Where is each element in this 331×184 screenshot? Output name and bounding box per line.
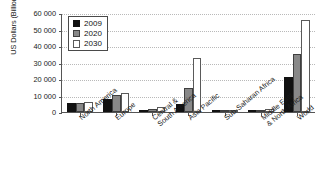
bar-2009-sub-saharan-africa — [212, 110, 221, 112]
y-tick-label: 40 000 — [14, 43, 56, 50]
legend-swatch-icon-2020 — [73, 30, 81, 38]
legend-item-2020: 2020 — [73, 30, 102, 38]
legend-label-2030: 2030 — [84, 40, 102, 48]
bar-group — [134, 14, 170, 112]
x-category-label: World — [296, 116, 301, 122]
y-tick-label: 10 000 — [14, 93, 56, 100]
x-category-label: North America — [78, 116, 83, 122]
x-category-label: Sub-Saharan Africa — [223, 116, 228, 122]
legend-swatch-icon-2030 — [73, 40, 81, 48]
x-category-label: Asia Pacific — [187, 116, 192, 122]
bar-2009-middle-east-north-africa — [248, 110, 257, 112]
legend-item-2030: 2030 — [73, 40, 102, 48]
y-tick-mark — [59, 113, 63, 114]
legend-label-2009: 2009 — [84, 20, 102, 28]
x-category-label: Europe — [114, 116, 119, 122]
y-tick-label: 0 — [14, 109, 56, 116]
x-category-label: Central &South America — [151, 116, 162, 129]
y-tick-label: 20 000 — [14, 76, 56, 83]
x-category-label: Middle East& North Africa — [260, 116, 271, 129]
y-tick-label: 30 000 — [14, 60, 56, 67]
legend-label-2020: 2020 — [84, 30, 102, 38]
legend-swatch-icon-2009 — [73, 20, 81, 28]
y-tick-label: 60 000 — [14, 10, 56, 17]
bar-2009-central-south-america — [139, 110, 148, 112]
y-tick-label: 50 000 — [14, 27, 56, 34]
x-category-label-line: South America — [156, 122, 161, 128]
x-category-label-line: & North Africa — [265, 122, 270, 128]
x-axis-category-labels: North AmericaEuropeCentral &South Americ… — [61, 116, 315, 182]
legend-item-2009: 2009 — [73, 20, 102, 28]
legend: 2009 2020 2030 — [68, 16, 108, 51]
bar-chart-figure: US Dollars (Billions) 010 00020 00030 00… — [0, 0, 331, 184]
bar-2009-north-america — [67, 103, 76, 112]
